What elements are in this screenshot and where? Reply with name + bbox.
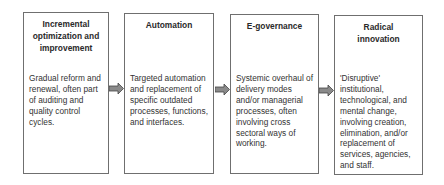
stage-description: 'Disruptive' institutional, technologica…: [340, 73, 419, 171]
stage-description: Gradual reform and renewal, often part o…: [29, 73, 105, 128]
stage-box-radical: Radical innovation 'Disruptive' institut…: [334, 15, 423, 175]
stage-box-egovernance: E-governance Systemic overhaul of delive…: [230, 14, 319, 174]
stage-title: E-governance: [233, 20, 316, 32]
stage-box-automation: Automation Targeted automation and repla…: [124, 13, 214, 174]
stage-description: Targeted automation and replacement of s…: [130, 73, 210, 128]
stage-title: Incremental optimization and improvement: [26, 18, 106, 54]
stage-box-incremental: Incremental optimization and improvement…: [23, 12, 109, 174]
stage-title: Radical innovation: [337, 21, 420, 45]
right-arrow-icon: [215, 84, 230, 95]
right-arrow-icon: [319, 85, 334, 96]
stage-title: Automation: [127, 19, 211, 31]
stage-description: Systemic overhaul of delivery modes and/…: [236, 73, 315, 149]
right-arrow-icon: [109, 83, 124, 94]
